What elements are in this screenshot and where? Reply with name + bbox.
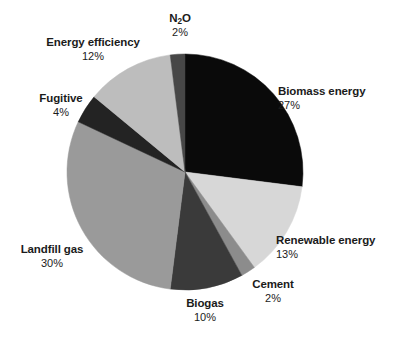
slice-label-n2o-pct: 2% [150, 26, 210, 38]
pie-chart-figure: N2O 2% Biomass energy 27% Renewable ener… [0, 0, 407, 346]
slice-label-renewable-energy: Renewable energy 13% [276, 234, 404, 260]
slice-label-fugitive-pct: 4% [22, 106, 100, 118]
slice-label-n2o: N2O 2% [150, 12, 210, 38]
n2o-name-subscript: 2 [177, 17, 181, 26]
slice-label-biogas-name: Biogas [168, 297, 242, 310]
slice-label-fugitive-name: Fugitive [22, 92, 100, 105]
slice-label-energy-efficiency-pct: 12% [30, 50, 156, 62]
slice-label-fugitive: Fugitive 4% [22, 92, 100, 118]
pie-slice-biomass-energy [185, 54, 303, 187]
slice-label-landfill-gas-pct: 30% [4, 257, 100, 269]
n2o-name-suffix: O [182, 12, 191, 24]
slice-label-energy-efficiency-name: Energy efficiency [30, 36, 156, 49]
slice-label-biomass-energy-pct: 27% [278, 99, 404, 111]
slice-label-energy-efficiency: Energy efficiency 12% [30, 36, 156, 62]
slice-label-landfill-gas: Landfill gas 30% [4, 243, 100, 269]
slice-label-biomass-energy: Biomass energy 27% [278, 85, 404, 111]
slice-label-landfill-gas-name: Landfill gas [4, 243, 100, 256]
slice-label-cement: Cement 2% [236, 278, 310, 304]
slice-label-biogas-pct: 10% [168, 311, 242, 323]
slice-label-biogas: Biogas 10% [168, 297, 242, 323]
slice-label-cement-pct: 2% [236, 292, 310, 304]
slice-label-renewable-energy-pct: 13% [276, 248, 404, 260]
slice-label-n2o-name: N2O [150, 12, 210, 25]
pie-slices-group [67, 54, 303, 290]
slice-label-cement-name: Cement [236, 278, 310, 291]
slice-label-renewable-energy-name: Renewable energy [276, 234, 404, 247]
slice-label-biomass-energy-name: Biomass energy [278, 85, 404, 98]
